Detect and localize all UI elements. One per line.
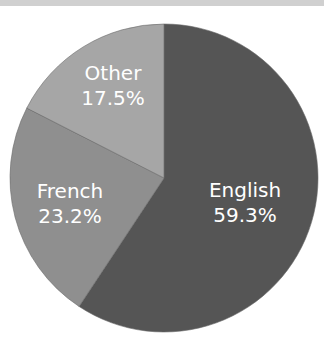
slice-value-other: 17.5%: [81, 86, 145, 110]
slice-value-english: 59.3%: [213, 203, 277, 227]
slice-label-other: Other: [85, 61, 143, 85]
slice-label-french: French: [37, 179, 103, 203]
slice-label-english: English: [209, 178, 281, 202]
pie-chart: English 59.3% French 23.2% Other 17.5%: [0, 0, 324, 344]
slice-value-french: 23.2%: [38, 204, 102, 228]
